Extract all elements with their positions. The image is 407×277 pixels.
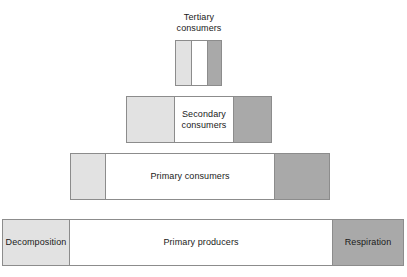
secondary-assimilation-segment: Secondary consumers <box>174 97 233 142</box>
primary-consumers-assimilation-segment: Primary consumers <box>105 154 274 199</box>
decomposition-label: Decomposition <box>6 237 67 248</box>
tertiary-consumers-label: Tertiary consumers <box>168 12 230 34</box>
secondary-consumers-label: Secondary consumers <box>182 109 227 131</box>
tertiary-assimilation-segment <box>191 41 207 85</box>
tertiary-consumers-bar <box>175 40 222 86</box>
secondary-consumers-bar: Secondary consumers <box>126 96 272 143</box>
respiration-segment: Respiration <box>332 220 403 265</box>
primary-producers-assimilation-segment: Primary producers <box>69 220 332 265</box>
primary-consumers-respiration-segment <box>274 154 329 199</box>
tertiary-respiration-segment <box>207 41 221 85</box>
primary-consumers-bar: Primary consumers <box>70 153 330 200</box>
trophic-pyramid-diagram: Tertiary consumers Secondary consumers P… <box>0 0 407 277</box>
respiration-label: Respiration <box>345 237 392 248</box>
secondary-decomposition-segment <box>127 97 174 142</box>
primary-consumers-decomposition-segment <box>71 154 105 199</box>
primary-consumers-label: Primary consumers <box>150 171 229 182</box>
decomposition-segment: Decomposition <box>3 220 69 265</box>
tertiary-decomposition-segment <box>176 41 191 85</box>
primary-producers-bar: Decomposition Primary producers Respirat… <box>2 219 404 266</box>
primary-producers-label: Primary producers <box>163 237 238 248</box>
secondary-respiration-segment <box>233 97 271 142</box>
